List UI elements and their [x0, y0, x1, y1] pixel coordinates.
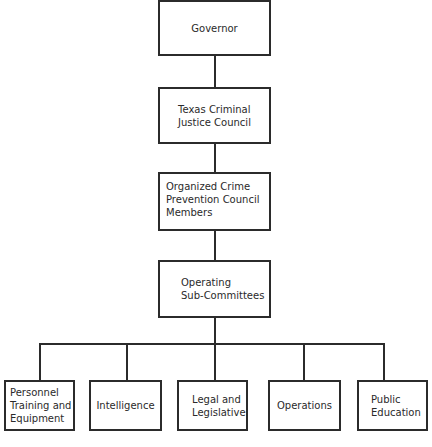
node-texas-criminal-justice-council: Texas Criminal Justice Council	[158, 87, 271, 144]
node-operations: Operations	[268, 380, 341, 431]
node-intelligence: Intelligence	[89, 380, 162, 431]
node-governor: Governor	[158, 0, 271, 56]
node-public-education: Public Education	[357, 380, 428, 431]
node-label: Organized Crime Prevention Council Membe…	[166, 180, 259, 219]
node-operating-sub-committees: Operating Sub-Committees	[158, 260, 271, 318]
connector-tcjc-ocpc	[214, 143, 216, 173]
horizontal-bus-line	[39, 343, 384, 345]
connector-ocpc-operating	[214, 230, 216, 261]
node-personnel-training-equipment: Personnel Training and Equipment	[4, 380, 75, 431]
node-label: Operating Sub-Committees	[181, 276, 264, 302]
node-label: Governor	[191, 22, 237, 35]
node-label: Texas Criminal Justice Council	[178, 103, 251, 129]
node-label: Operations	[277, 399, 332, 412]
node-organized-crime-prevention-council: Organized Crime Prevention Council Membe…	[158, 172, 271, 231]
node-label: Public Education	[371, 393, 421, 419]
node-legal-and-legislative: Legal and Legislative	[177, 380, 248, 431]
connector-governor-tcjc	[214, 55, 216, 88]
connector-bus-personnel	[39, 343, 41, 381]
node-label: Intelligence	[96, 399, 154, 412]
node-label: Legal and Legislative	[192, 393, 246, 419]
connector-bus-public-education	[383, 343, 385, 381]
connector-bus-operations	[303, 343, 305, 381]
node-label: Personnel Training and Equipment	[10, 386, 71, 425]
connector-operating-bus	[214, 317, 216, 381]
connector-bus-intelligence	[126, 343, 128, 381]
